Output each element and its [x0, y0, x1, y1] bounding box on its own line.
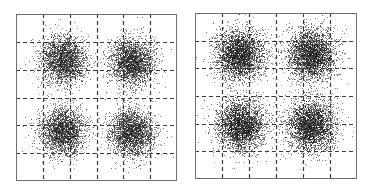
scatter-canvas	[195, 13, 357, 179]
scatter-canvas	[16, 14, 177, 181]
scatter-plot-left: Constellation plot A	[16, 14, 177, 181]
scatter-plot-right: Constellation plot B	[195, 13, 357, 179]
